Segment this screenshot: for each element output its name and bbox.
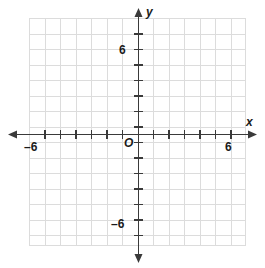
y-axis — [134, 8, 143, 263]
x-axis-tick-label-negative-6: –6 — [24, 141, 37, 153]
x-axis-arrow-left — [8, 131, 17, 139]
x-axis-label: x — [246, 116, 253, 128]
coordinate-grid-svg — [0, 0, 265, 268]
y-axis-label: y — [146, 6, 153, 18]
grid-lines — [29, 18, 246, 246]
coordinate-plane-figure: x y O 6 –6 6 –6 — [0, 0, 265, 268]
origin-label: O — [124, 137, 133, 149]
y-axis-tick-label-negative-6: –6 — [111, 218, 124, 230]
x-axis-tick-label-positive-6: 6 — [225, 141, 232, 153]
y-axis-tick-label-positive-6: 6 — [119, 44, 126, 56]
x-axis-arrow-right — [248, 131, 257, 139]
y-axis-arrow-up — [135, 8, 143, 17]
y-axis-arrow-down — [135, 254, 143, 263]
